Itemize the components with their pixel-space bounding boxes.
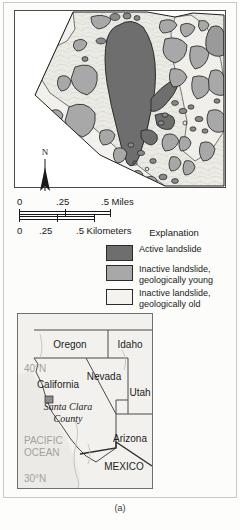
miles-scale-bar [17, 209, 147, 216]
north-arrow-label: N [30, 147, 60, 157]
legend-swatch-inactive-young [106, 265, 133, 281]
figure-panel: N 0 .25 .5 Miles 0 .25 .5 K [0, 0, 240, 530]
km-scale-bar [17, 216, 147, 223]
inset-label-lat-40n: 40°N [24, 363, 46, 374]
inset-label-oregon: Oregon [53, 339, 86, 350]
km-tick-0: 0 [17, 225, 22, 237]
legend-label-active-landslide: Active landslide [139, 244, 202, 255]
figure-caption: (a) [0, 503, 240, 513]
inset-label-pacific-ocean-line1: PACIFIC [24, 435, 63, 446]
inset-label-nevada: Nevada [87, 371, 122, 382]
legend-label-inactive-old: Inactive landslide, geologically old [139, 288, 232, 309]
miles-scale-labels: 0 .25 .5 Miles [17, 196, 147, 208]
inset-label-california: California [37, 379, 80, 390]
legend-item-inactive-young: Inactive landslide, geologically young [106, 264, 232, 285]
legend-label-inactive-young: Inactive landslide, geologically young [139, 264, 232, 285]
km-tick-mark-0 [19, 214, 20, 222]
legend-item-active: Active landslide [106, 244, 232, 261]
inset-label-arizona: Arizona [113, 433, 147, 444]
north-arrow-icon [30, 157, 60, 193]
explanation-legend: Explanation Active landslide Inactive la… [106, 227, 232, 312]
legend-swatch-inactive-old [106, 289, 133, 305]
inset-label-lat-30n: 30°N [24, 473, 46, 484]
miles-tick-25: .25 [56, 196, 69, 208]
km-tick-mark-5 [94, 214, 95, 222]
locator-inset-svg: Oregon Idaho Nevada Utah California Ariz… [18, 314, 152, 488]
legend-item-inactive-old: Inactive landslide, geologically old [106, 288, 232, 309]
north-arrow: N [30, 147, 60, 193]
miles-tick-0: 0 [17, 196, 22, 208]
legend-swatch-active-landslide [106, 245, 133, 261]
inset-label-idaho: Idaho [117, 339, 142, 350]
miles-unit-label: .5 Miles [101, 196, 134, 208]
locator-inset-map: Oregon Idaho Nevada Utah California Ariz… [17, 313, 153, 489]
inset-label-utah: Utah [129, 387, 150, 398]
inset-label-santa-clara-line2: County [54, 413, 83, 424]
inset-label-pacific-ocean-line2: OCEAN [24, 447, 60, 458]
inset-label-santa-clara-line1: Santa Clara [44, 401, 93, 412]
km-tick-mark-25 [57, 214, 58, 222]
explanation-title: Explanation [128, 227, 220, 238]
km-tick-25: .25 [39, 225, 52, 237]
inset-label-mexico: MEXICO [104, 461, 144, 472]
